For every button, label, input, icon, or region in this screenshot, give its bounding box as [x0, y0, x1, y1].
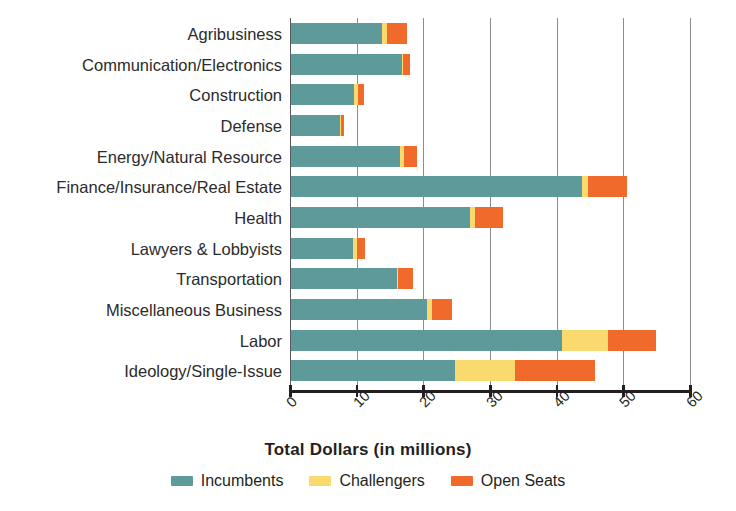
bar-segment-incumbents	[290, 23, 382, 44]
bar-row	[290, 176, 690, 197]
legend-label: Incumbents	[201, 472, 284, 490]
bar-segment-incumbents	[290, 330, 562, 351]
category-label-defense: Defense	[0, 118, 282, 135]
bar-segment-incumbents	[290, 299, 427, 320]
category-label-transportation: Transportation	[0, 271, 282, 288]
category-label-energy-natural-resource: Energy/Natural Resource	[0, 149, 282, 166]
bar-segment-open-seats	[608, 330, 656, 351]
category-label-ideology-single-issue: Ideology/Single-Issue	[0, 363, 282, 380]
bar-segment-open-seats	[432, 299, 452, 320]
legend-item-challengers: Challengers	[309, 472, 424, 490]
category-label-health: Health	[0, 210, 282, 227]
bar-segment-incumbents	[290, 207, 470, 228]
legend-label: Challengers	[339, 472, 424, 490]
legend-swatch-challengers	[309, 476, 331, 486]
category-label-miscellaneous-business: Miscellaneous Business	[0, 302, 282, 319]
bar-segment-open-seats	[387, 23, 406, 44]
bar-segment-incumbents	[290, 238, 353, 259]
category-label-finance-insurance-real-estate: Finance/Insurance/Real Estate	[0, 179, 282, 196]
bar-row	[290, 207, 690, 228]
bar-row	[290, 268, 690, 289]
legend-swatch-openseats	[451, 476, 473, 486]
x-tick-label-0: 0	[283, 393, 300, 410]
gridline-60	[690, 18, 691, 386]
bar-row	[290, 115, 690, 136]
bar-rows	[290, 18, 690, 386]
bar-segment-incumbents	[290, 54, 402, 75]
bar-segment-incumbents	[290, 84, 354, 105]
bar-segment-open-seats	[475, 207, 503, 228]
legend-item-incumbents: Incumbents	[171, 472, 284, 490]
bar-segment-open-seats	[403, 54, 410, 75]
bar-segment-incumbents	[290, 176, 582, 197]
bar-segment-incumbents	[290, 360, 455, 381]
legend-item-open-seats: Open Seats	[451, 472, 566, 490]
bar-row	[290, 238, 690, 259]
bar-row	[290, 360, 690, 381]
bar-segment-challengers	[455, 360, 516, 381]
bar-segment-challengers	[562, 330, 608, 351]
bar-segment-open-seats	[404, 146, 417, 167]
bar-segment-open-seats	[398, 268, 413, 289]
bar-row	[290, 54, 690, 75]
chart-legend: IncumbentsChallengersOpen Seats	[0, 472, 736, 490]
stacked-bar-chart: AgribusinessCommunication/ElectronicsCon…	[0, 0, 736, 511]
category-label-communication-electronics: Communication/Electronics	[0, 57, 282, 74]
bar-segment-open-seats	[357, 238, 364, 259]
x-axis-title: Total Dollars (in millions)	[0, 440, 736, 460]
bar-segment-incumbents	[290, 115, 340, 136]
bar-row	[290, 299, 690, 320]
bar-segment-incumbents	[290, 268, 397, 289]
bar-segment-open-seats	[358, 84, 364, 105]
category-label-labor: Labor	[0, 333, 282, 350]
bar-row	[290, 84, 690, 105]
bar-segment-open-seats	[341, 115, 344, 136]
category-label-lawyers-lobbyists: Lawyers & Lobbyists	[0, 241, 282, 258]
legend-label: Open Seats	[481, 472, 566, 490]
bar-segment-open-seats	[515, 360, 594, 381]
category-label-agribusiness: Agribusiness	[0, 26, 282, 43]
bar-segment-incumbents	[290, 146, 400, 167]
category-label-construction: Construction	[0, 87, 282, 104]
y-axis-line	[290, 18, 291, 386]
legend-swatch-incumbents	[171, 476, 193, 486]
plot-area	[290, 18, 690, 386]
bar-row	[290, 23, 690, 44]
bar-segment-open-seats	[588, 176, 627, 197]
bar-row	[290, 146, 690, 167]
category-axis-labels: AgribusinessCommunication/ElectronicsCon…	[0, 18, 282, 386]
bar-row	[290, 330, 690, 351]
